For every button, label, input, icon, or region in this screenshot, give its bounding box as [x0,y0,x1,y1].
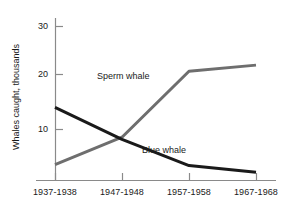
series-label-blue-whale: Blue whale [142,145,186,155]
line-chart: 30 20 10 1937-1938 1947-1948 1957-1958 1… [0,0,286,214]
series-label-sperm-whale: Sperm whale [97,71,150,81]
series-line-blue-whale [55,107,256,172]
x-tick-label-1957-1958: 1957-1958 [156,187,222,197]
y-tick-label-20: 20 [28,69,48,79]
x-tick-label-1937-1938: 1937-1938 [22,187,88,197]
series-group [55,65,256,172]
y-tick-label-30: 30 [28,21,48,31]
x-tick-label-1947-1948: 1947-1948 [89,187,155,197]
y-axis-title: Whales caught, thousands [11,37,21,157]
y-tick-label-10: 10 [28,124,48,134]
x-tick-label-1967-1968: 1967-1968 [223,187,286,197]
chart-plot-area [0,0,286,214]
